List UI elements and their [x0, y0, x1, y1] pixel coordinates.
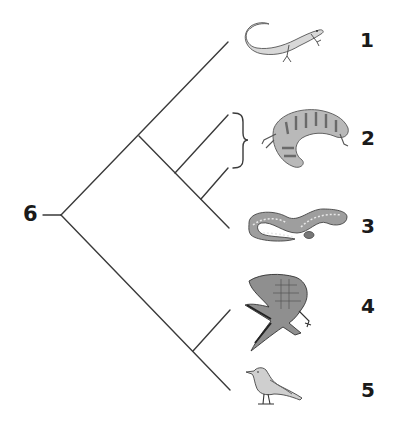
tip-label-4: 4 — [358, 296, 378, 316]
branch-to-tip-5 — [61, 215, 230, 390]
branch-to-tip-4 — [193, 310, 230, 351]
snake-icon — [249, 209, 347, 241]
branch-to-tip-1 — [61, 42, 228, 215]
root-node-label: 6 — [23, 204, 38, 225]
cladogram — [0, 0, 399, 441]
gila-monster-icon — [262, 110, 348, 168]
branch-to-bracket-bottom — [201, 168, 228, 199]
branch-to-bracket-top — [175, 115, 228, 173]
tip-label-2: 2 — [358, 128, 378, 148]
tip-label-1: 1 — [357, 30, 377, 50]
lizard-icon — [245, 23, 323, 62]
curly-brace — [233, 113, 248, 168]
tip-label-3: 3 — [358, 216, 378, 236]
tip-label-5: 5 — [358, 380, 378, 400]
bird-icon — [246, 368, 302, 404]
crocodile-icon — [245, 274, 311, 351]
